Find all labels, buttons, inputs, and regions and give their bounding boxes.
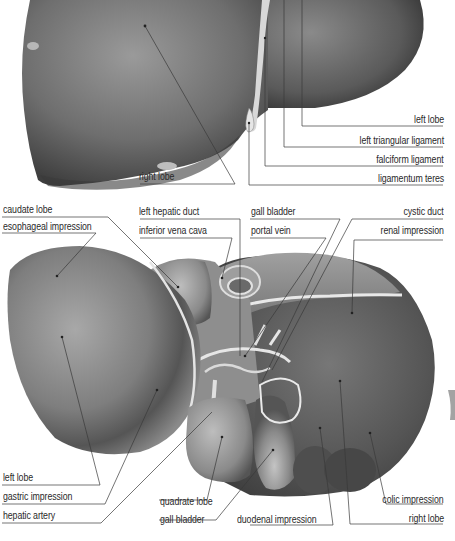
label-cystic-duct: cystic duct (404, 206, 444, 218)
label-duodenal-impression: duodenal impression (237, 514, 317, 526)
label-left-triangular-ligament: left triangular ligament (360, 135, 444, 147)
label-gall-bladder-bottom: gall bladder (160, 514, 204, 526)
label-falciform-ligament: falciform ligament (377, 154, 444, 166)
label-hepatic-artery: hepatic artery (3, 510, 55, 522)
label-caudate-lobe: caudate lobe (3, 204, 52, 216)
label-bottom-left-lobe: left lobe (3, 472, 33, 484)
liver-anterior-view (22, 0, 424, 190)
label-top-right-lobe: right lobe (139, 171, 174, 183)
label-portal-vein: portal vein (251, 225, 291, 237)
label-left-hepatic-duct: left hepatic duct (139, 206, 199, 218)
liver-illustration (0, 0, 455, 541)
label-colic-impression: colic impression (383, 494, 444, 506)
liver-visceral-view (8, 246, 455, 496)
label-ligamentum-teres: ligamentum teres (378, 173, 444, 185)
label-inferior-vena-cava: inferior vena cava (139, 225, 207, 237)
label-bottom-right-lobe: right lobe (409, 513, 444, 525)
label-renal-impression: renal impression (381, 225, 444, 237)
label-esophageal-impression: esophageal impression (3, 221, 92, 233)
label-quadrate-lobe: quadrate lobe (160, 496, 213, 508)
label-gall-bladder-top: gall bladder (251, 206, 295, 218)
label-top-left-lobe: left lobe (414, 114, 444, 126)
label-gastric-impression: gastric impression (3, 491, 72, 503)
